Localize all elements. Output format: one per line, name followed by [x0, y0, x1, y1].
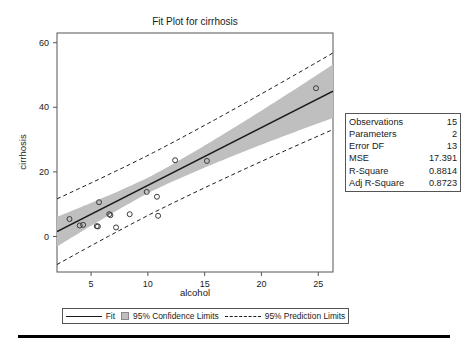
y-tick-label: 0 — [44, 232, 49, 242]
y-axis-title: cirrhosis — [17, 134, 28, 170]
data-point — [154, 194, 159, 199]
legend-label-confidence: 95% Confidence Limits — [133, 311, 219, 321]
y-tick-label: 20 — [39, 167, 49, 177]
bottom-divider-rule — [18, 335, 450, 338]
statistic-value: 0.8723 — [419, 177, 460, 189]
legend-entry-confidence: 95% Confidence Limits — [121, 311, 219, 321]
x-tick-label: 10 — [143, 279, 153, 289]
fit-plot-figure: Fit Plot for cirrhosis 5101520250204060 … — [0, 0, 469, 349]
statistic-label: Adj R-Square — [346, 177, 419, 189]
data-point — [156, 213, 161, 218]
statistic-value: 2 — [419, 128, 460, 140]
statistics-row: MSE17.391 — [346, 152, 460, 164]
statistics-row: Adj R-Square0.8723 — [346, 177, 460, 189]
statistics-row: Parameters2 — [346, 128, 460, 140]
statistic-value: 17.391 — [419, 152, 460, 164]
plot-content — [57, 53, 333, 265]
x-axis-title: alcohol — [180, 287, 210, 298]
data-point — [127, 212, 132, 217]
statistic-label: Error DF — [346, 140, 419, 152]
legend-entry-prediction: 95% Prediction Limits — [225, 311, 346, 321]
fit-line-swatch-icon — [66, 316, 102, 317]
statistic-value: 0.8814 — [419, 165, 460, 177]
statistics-box: Observations15Parameters2Error DF13MSE17… — [345, 113, 461, 192]
confidence-band-swatch-icon — [121, 312, 129, 320]
data-point — [114, 225, 119, 230]
prediction-limits-swatch-icon — [225, 316, 261, 317]
y-tick-label: 40 — [39, 102, 49, 112]
prediction-limit-lower — [57, 130, 333, 265]
x-tick-label: 25 — [313, 279, 323, 289]
y-tick-label: 60 — [39, 38, 49, 48]
statistic-value: 15 — [419, 116, 460, 128]
statistics-row: Error DF13 — [346, 140, 460, 152]
chart-legend: Fit 95% Confidence Limits 95% Prediction… — [62, 308, 349, 324]
statistic-label: MSE — [346, 152, 419, 164]
statistics-row: Observations15 — [346, 116, 460, 128]
statistic-label: Parameters — [346, 128, 419, 140]
statistic-label: R-Square — [346, 165, 419, 177]
confidence-band — [57, 64, 333, 246]
statistics-row: R-Square0.8814 — [346, 165, 460, 177]
x-tick-label: 5 — [89, 279, 94, 289]
x-tick-label: 20 — [256, 279, 266, 289]
statistic-label: Observations — [346, 116, 419, 128]
statistic-value: 13 — [419, 140, 460, 152]
legend-label-fit: Fit — [106, 311, 115, 321]
chart-title: Fit Plot for cirrhosis — [152, 16, 238, 27]
legend-entry-fit: Fit — [66, 311, 115, 321]
statistics-table: Observations15Parameters2Error DF13MSE17… — [346, 116, 460, 189]
legend-label-prediction: 95% Prediction Limits — [265, 311, 346, 321]
data-point — [173, 158, 178, 163]
fit-line — [57, 91, 333, 231]
